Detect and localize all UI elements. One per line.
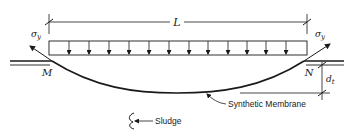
synthetic-membrane-curve — [52, 61, 304, 93]
span-label: L — [172, 16, 180, 29]
sludge-symbol-icon — [129, 113, 134, 129]
depth-label: dt — [326, 74, 335, 86]
anchor-label-n: N — [304, 67, 315, 78]
membrane-diagram: L M N σy — [0, 0, 354, 133]
load-box — [49, 41, 307, 55]
stress-label-left: σy — [31, 29, 42, 41]
stress-right: σy — [304, 29, 330, 61]
distributed-load — [49, 41, 307, 55]
membrane-callout: Synthetic Membrane — [207, 94, 306, 109]
stress-subscript-right: y — [320, 33, 326, 41]
load-arrows — [69, 41, 286, 54]
stress-label-right: σy — [315, 29, 326, 41]
stress-subscript-left: y — [36, 33, 42, 41]
membrane-label: Synthetic Membrane — [228, 99, 306, 109]
span-dimension: L — [45, 14, 311, 34]
membrane-leader-icon — [207, 94, 226, 104]
anchor-label-m: M — [41, 67, 53, 78]
depth-dimension: dt — [240, 62, 335, 100]
depth-subscript: t — [332, 78, 335, 86]
sludge-callout: Sludge — [129, 113, 181, 129]
sludge-label: Sludge — [155, 116, 182, 126]
stress-arrow-right-icon — [304, 44, 330, 61]
anchor-left: M — [10, 61, 53, 78]
